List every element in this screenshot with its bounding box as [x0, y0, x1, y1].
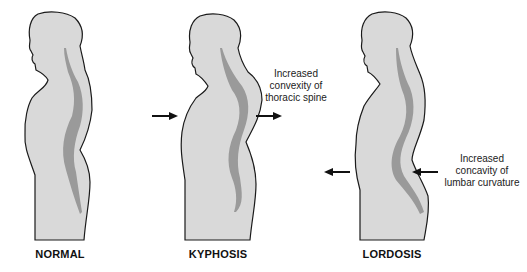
kyphosis-body-outline: [181, 14, 262, 240]
kyphosis-annotation: Increased convexity of thoracic spine: [256, 68, 336, 104]
normal-label: NORMAL: [30, 248, 90, 260]
kyphosis-annotation-line-3: thoracic spine: [256, 92, 336, 104]
lordosis-figure: [355, 12, 428, 240]
lordosis-back-arrow-left-icon: [412, 168, 438, 176]
lordosis-annotation-line-3: lumbar curvature: [437, 177, 527, 189]
spinal-curvature-diagram: Increased convexity of thoracic spine In…: [0, 0, 527, 272]
kyphosis-label: KYPHOSIS: [183, 248, 253, 260]
normal-figure: [25, 12, 92, 240]
kyphosis-back-arrow-right-icon: [256, 112, 282, 120]
kyphosis-annotation-line-1: Increased: [256, 68, 336, 80]
lordosis-front-arrow-left-icon: [324, 168, 350, 176]
kyphosis-figure: [181, 14, 262, 240]
kyphosis-front-arrow-right-icon: [152, 112, 178, 120]
kyphosis-annotation-line-2: convexity of: [256, 80, 336, 92]
lordosis-annotation-line-1: Increased: [437, 153, 527, 165]
body-silhouettes: [0, 0, 527, 272]
lordosis-annotation-line-2: concavity of: [437, 165, 527, 177]
lordosis-annotation: Increased concavity of lumbar curvature: [437, 153, 527, 189]
lordosis-label: LORDOSIS: [357, 248, 427, 260]
normal-body-outline: [25, 12, 92, 240]
